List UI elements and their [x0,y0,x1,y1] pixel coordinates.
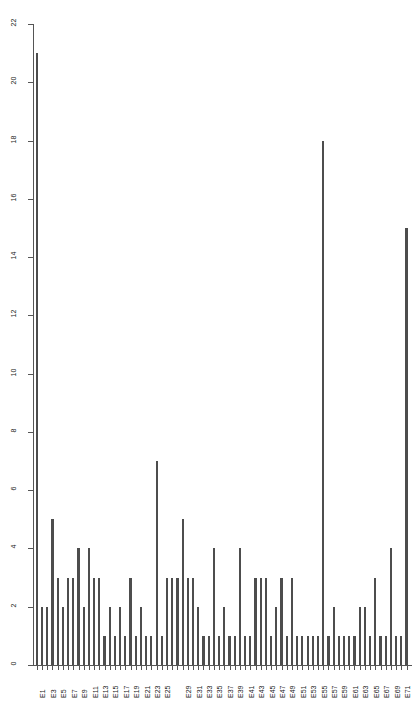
x-axis-tick [224,666,225,670]
bar [218,636,220,665]
x-axis-tick-label: E51 [300,686,307,698]
y-axis-tick-label: 10 [10,359,17,385]
bar [197,607,199,665]
x-axis-tick [245,666,246,670]
y-axis-tick [28,199,33,200]
bar [228,636,230,665]
x-axis-tick [354,666,355,670]
bar [223,607,225,665]
x-axis-tick [386,666,387,670]
bar [249,636,251,665]
y-axis-tick-label: 16 [10,184,17,210]
bar [296,636,298,665]
x-axis-tick [47,666,48,670]
y-axis-tick-label: 2 [10,592,17,618]
x-axis-tick [401,666,402,670]
y-axis-tick-label: 20 [10,68,17,94]
x-axis-tick [183,666,184,670]
bar [208,636,210,665]
x-axis-tick [344,666,345,670]
bar [327,636,329,665]
bar [67,578,69,665]
y-axis-tick-label: 12 [10,301,17,327]
bar [338,636,340,665]
x-axis-tick [375,666,376,670]
y-axis-tick [28,374,33,375]
bar [265,578,267,665]
x-axis-tick [84,666,85,670]
x-axis-tick [256,666,257,670]
x-axis-tick [188,666,189,670]
x-axis-tick-label: E61 [352,686,359,698]
bar [171,578,173,665]
bar [390,548,392,665]
x-axis-tick-label: E17 [123,686,130,698]
bar [109,607,111,665]
y-axis-tick [28,257,33,258]
x-axis-tick-label: E1 [39,689,46,698]
x-axis-tick-label: E13 [102,686,109,698]
x-axis-tick [287,666,288,670]
bar [348,636,350,665]
bar [317,636,319,665]
bar [244,636,246,665]
bar [374,578,376,665]
x-axis-tick [308,666,309,670]
x-axis-tick-label: E57 [331,686,338,698]
x-axis-tick [198,666,199,670]
bar [98,578,100,665]
bar [385,636,387,665]
x-axis-tick-label: E19 [133,686,140,698]
x-axis-tick-label: E3 [50,689,57,698]
x-axis-tick-label: E41 [248,686,255,698]
bar [234,636,236,665]
x-axis-tick [365,666,366,670]
x-axis-tick [58,666,59,670]
x-axis-tick-label: E11 [92,686,99,698]
x-axis-tick [266,666,267,670]
bar [156,461,158,665]
x-axis-tick [79,666,80,670]
x-axis-tick-label: E31 [196,686,203,698]
x-axis-tick [323,666,324,670]
x-axis-tick [230,666,231,670]
y-axis-tick [28,548,33,549]
x-axis-tick [276,666,277,670]
y-axis-tick-label: 6 [10,476,17,502]
bar [166,578,168,665]
x-axis-tick [110,666,111,670]
x-axis-tick [63,666,64,670]
x-axis-tick [292,666,293,670]
x-axis-tick-label: E63 [362,686,369,698]
bar [353,636,355,665]
y-axis-tick-label: 14 [10,243,17,269]
x-axis-tick [339,666,340,670]
bar [46,607,48,665]
x-axis-tick [42,666,43,670]
x-axis-tick-label: E53 [310,686,317,698]
y-axis-tick-label: 18 [10,126,17,152]
x-axis-tick-label: E35 [216,686,223,698]
x-axis-tick [94,666,95,670]
bar [62,607,64,665]
bar [129,578,131,665]
x-axis-tick [250,666,251,670]
bar [369,636,371,665]
y-axis-tick-label: 4 [10,534,17,560]
bar [400,636,402,665]
bar [307,636,309,665]
bar [286,636,288,665]
y-axis-tick [28,490,33,491]
bar [51,519,53,665]
bar [93,578,95,665]
bar [260,578,262,665]
bar [322,141,324,665]
x-axis-tick [99,666,100,670]
x-axis-tick [120,666,121,670]
x-axis-tick [146,666,147,670]
bar [333,607,335,665]
bar [150,636,152,665]
bar [301,636,303,665]
x-axis-tick-label: E5 [60,689,67,698]
x-axis-tick-label: E25 [164,686,171,698]
